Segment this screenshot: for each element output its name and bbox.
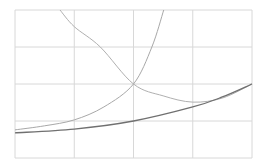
series-line-decreasing-convex xyxy=(60,10,252,102)
series-line-steep-increasing xyxy=(15,10,164,130)
line-chart xyxy=(0,0,264,167)
